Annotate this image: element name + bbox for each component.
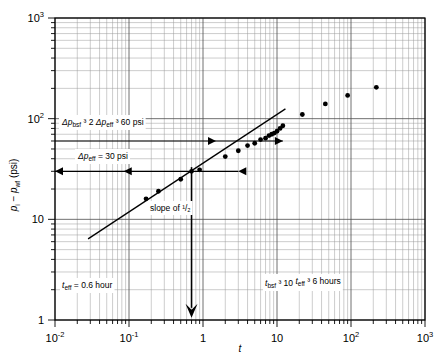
data-point: [245, 143, 250, 148]
data-point: [156, 189, 161, 194]
slope-note-text: slope of ¹/₂: [150, 203, 191, 213]
data-point: [178, 177, 183, 182]
data-point: [280, 123, 285, 128]
data-point: [252, 141, 257, 146]
data-point: [197, 167, 202, 172]
slope-annotation: slope of ¹/₂: [148, 201, 193, 215]
data-point: [323, 102, 328, 107]
y-label-minus: −: [8, 193, 19, 204]
data-point: [345, 93, 350, 98]
t-eff-annotation: teff = 0.6 hour: [60, 278, 115, 293]
y-tick-label: 10: [32, 213, 44, 225]
data-point: [223, 154, 228, 159]
data-point: [189, 169, 194, 174]
log-log-plot-figure: 10-210-1110102103 103102101 t pi − pwf (…: [0, 0, 438, 357]
delta-p-eff-note-text: Δpeff = 30 psi: [77, 151, 128, 162]
data-point: [144, 196, 149, 201]
t-bsf-annotation: tbsf ³ 10 teff ³ 6 hours: [263, 274, 343, 291]
figure-background: [0, 0, 438, 357]
data-point: [258, 137, 263, 142]
x-tick-label: 10: [271, 332, 283, 344]
x-tick-label: 1: [200, 332, 206, 344]
y-label-units: (psi): [8, 159, 19, 181]
y-tick-label: 1: [38, 314, 44, 326]
data-point: [374, 85, 379, 90]
data-point: [236, 148, 241, 153]
plot-canvas: 10-210-1110102103 103102101 t pi − pwf (…: [0, 0, 438, 357]
data-point: [300, 112, 305, 117]
delta-p-eff-annotation: Δpeff = 30 psi: [75, 149, 130, 164]
delta-p-bsf-annotation: Δpbsf ³ 2 Δpeff ³ 60 psi: [59, 115, 146, 130]
